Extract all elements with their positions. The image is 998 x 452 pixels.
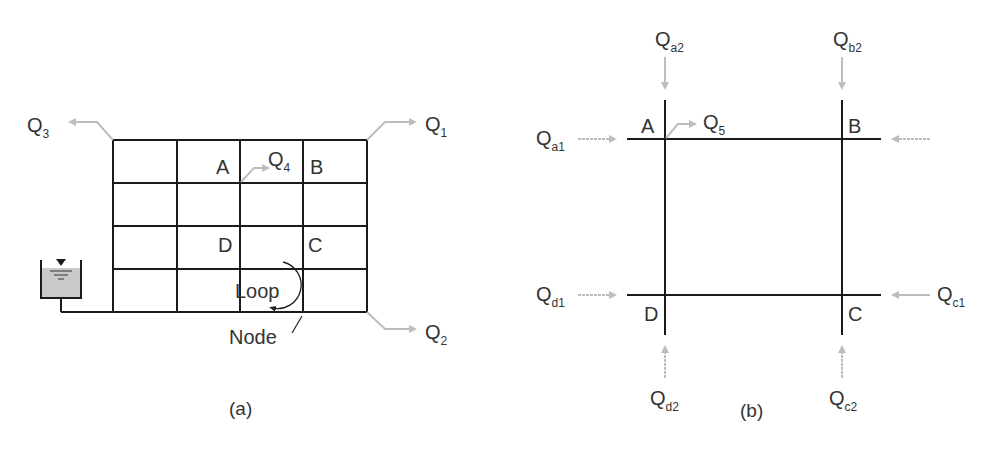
loop-label: Loop: [235, 280, 280, 302]
pipe-network-figure: A B D C Q3 Q1 Q2 Q4 Loop Node (a): [0, 0, 998, 452]
arrow-q3: [70, 122, 113, 140]
flow-label-qa2: Qa2: [655, 28, 684, 55]
flow-label-q3: Q3: [27, 114, 50, 141]
panel-a: A B D C Q3 Q1 Q2 Q4 Loop Node (a): [27, 113, 448, 419]
flow-label-qd1: Qd1: [536, 283, 565, 310]
node-label-A: A: [216, 156, 230, 178]
node-label: Node: [229, 326, 277, 348]
arrow-q5: [666, 124, 695, 138]
flow-label-qb2: Qb2: [833, 28, 862, 55]
flow-label-q2: Q2: [425, 321, 448, 348]
node-label-C: C: [848, 303, 862, 325]
node-label-B: B: [310, 156, 323, 178]
flow-arrows: [578, 57, 930, 378]
caption-b: (b): [740, 400, 763, 421]
node-label-B: B: [848, 115, 861, 137]
flow-label-qd2: Qd2: [650, 387, 679, 414]
reservoir-tank-icon: [41, 259, 81, 298]
node-pointer-line: [292, 316, 302, 333]
node-label-C: C: [308, 234, 322, 256]
flow-label-qc1: Qc1: [937, 283, 966, 310]
node-label-D: D: [218, 234, 232, 256]
node-label-A: A: [641, 115, 655, 137]
panel-b: A B D C Qa2 Qb2 Qa1 Q5 Qd1 Qc1 Qd2 Qc2 (…: [536, 28, 966, 421]
arrow-q4: [241, 168, 268, 182]
caption-a: (a): [229, 398, 252, 419]
arrow-q2: [367, 312, 415, 329]
pipe-loop: [627, 100, 881, 335]
flow-label-qc2: Qc2: [829, 387, 858, 414]
flow-label-qa1: Qa1: [536, 127, 565, 154]
flow-label-q4: Q4: [268, 148, 291, 175]
arrow-q1: [367, 122, 415, 140]
flow-label-q5: Q5: [703, 111, 726, 138]
flow-label-q1: Q1: [425, 113, 448, 140]
node-label-D: D: [644, 303, 658, 325]
